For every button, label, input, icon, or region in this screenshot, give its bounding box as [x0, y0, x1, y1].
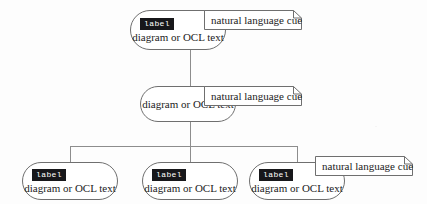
node-bottom-right-body: diagram or OCL text — [251, 182, 343, 194]
note-middle-text: natural language cue — [211, 90, 302, 102]
node-bottom-right-label-badge: label — [259, 169, 293, 181]
connector-bus-to-bottom-left — [70, 146, 71, 162]
node-top-label-badge: label — [140, 18, 174, 30]
diagram-canvas: label diagram or OCL text diagram or OCL… — [0, 0, 427, 204]
note-bottom[interactable]: natural language cue — [315, 156, 413, 176]
note-top[interactable]: natural language cue — [204, 10, 302, 30]
connector-middle-to-bus — [190, 122, 191, 146]
node-bottom-center-label-badge: label — [152, 169, 186, 181]
note-bottom-text: natural language cue — [322, 160, 413, 172]
node-bottom-left-label-badge: label — [32, 169, 66, 181]
note-middle[interactable]: natural language cue — [204, 86, 302, 106]
connector-horizontal-bus — [70, 146, 298, 147]
node-bottom-left-body: diagram or OCL text — [24, 182, 116, 194]
connector-bus-to-bottom-center — [190, 146, 191, 162]
node-bottom-center[interactable]: label diagram or OCL text — [142, 162, 238, 200]
node-bottom-center-body: diagram or OCL text — [144, 182, 236, 194]
note-top-text: natural language cue — [211, 14, 302, 26]
node-top-body: diagram or OCL text — [132, 31, 224, 43]
node-bottom-left[interactable]: label diagram or OCL text — [22, 162, 118, 200]
